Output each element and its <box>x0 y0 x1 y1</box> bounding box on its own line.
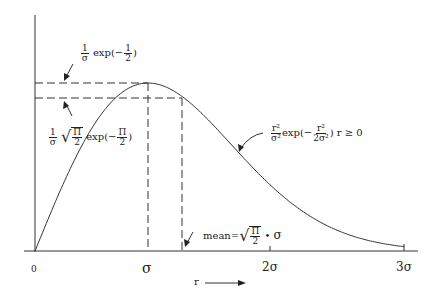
tick-label-3sigma: 3σ <box>396 261 412 273</box>
arrow-r-direction-icon <box>205 280 246 286</box>
arrow-peak-icon <box>64 64 73 81</box>
peak-formula: 1σ exp(−12) <box>80 44 137 63</box>
arrow-pdf-icon <box>238 133 263 152</box>
arrow-mean-icon <box>184 232 193 247</box>
tick-label-0: 0 <box>31 265 37 274</box>
mean-height-formula: 1σ √Π2 exp(−Π2) <box>48 127 132 147</box>
rayleigh-plot <box>0 0 440 300</box>
tick-label-2sigma: 2σ <box>262 261 278 273</box>
pdf-formula: r²σ²exp(−r²2σ²) r ≥ 0 <box>270 124 363 143</box>
mean-formula: mean=√Π2 • σ <box>203 226 282 246</box>
tick-label-sigma: σ <box>142 261 152 275</box>
x-axis-label: r <box>194 277 199 287</box>
arrow-mean-height-icon <box>63 101 72 116</box>
